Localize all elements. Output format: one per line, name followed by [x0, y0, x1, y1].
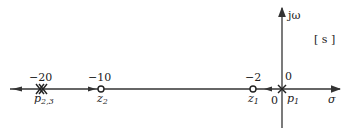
real-axis-label: σ — [328, 93, 336, 106]
zero-z1-value: −2 — [245, 71, 261, 84]
pole-p1-label: p1 — [287, 92, 299, 106]
plane-label: [ s ] — [314, 33, 335, 46]
locus-arrow-right-icon — [88, 87, 96, 92]
s-plane-canvas: jω σ [ s ] 0 −20 p2,3 −10 z2 −2 z1 0 p1 — [0, 0, 346, 136]
pole-zero-diagram: jω σ [ s ] 0 −20 p2,3 −10 z2 −2 z1 0 p1 — [0, 0, 346, 136]
origin-label: 0 — [271, 94, 278, 107]
zero-z1-label: z1 — [247, 92, 259, 106]
pole-p23-value: −20 — [29, 71, 52, 84]
pole-p1-value: 0 — [285, 70, 292, 83]
zero-z2-value: −10 — [88, 71, 111, 84]
pole-p23-label: p2,3 — [34, 92, 54, 106]
zero-z2-label: z2 — [96, 92, 108, 106]
real-axis-left-arrow-icon — [12, 87, 22, 92]
locus-arrow-left-icon — [264, 87, 272, 92]
imag-axis-label: jω — [286, 9, 300, 22]
